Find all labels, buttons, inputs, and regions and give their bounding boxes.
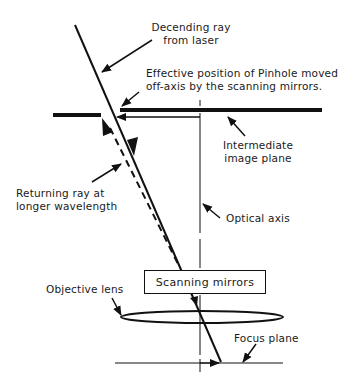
leader-returning-ray [92, 164, 121, 182]
label-line: Decending ray [146, 21, 236, 34]
label-pinhole: Effective position of Pinhole moved off-… [146, 67, 338, 93]
label-objective-lens: Objective lens [46, 283, 123, 296]
leader-intermediate-plane [228, 117, 245, 136]
label-descending-ray: Decending ray from laser [146, 21, 236, 47]
label-line: longer wavelength [16, 200, 117, 213]
label-line: Intermediate [218, 139, 298, 152]
label-scanning-mirrors: Scanning mirrors [156, 276, 254, 289]
intermediate-image-plane [53, 108, 322, 117]
leader-pinhole [122, 92, 139, 106]
label-line: Effective position of Pinhole moved [146, 67, 338, 80]
label-focus-plane: Focus plane [234, 332, 299, 345]
returning-ray-arrowhead [102, 118, 113, 136]
label-intermediate-plane: Intermediate image plane [218, 139, 298, 165]
leader-objective-lens [112, 298, 121, 315]
scanning-mirrors-box: Scanning mirrors [144, 270, 266, 294]
label-line: image plane [218, 152, 298, 165]
returning-ray [110, 128, 180, 268]
label-optical-axis: Optical axis [226, 212, 290, 225]
label-line: off-axis by the scanning mirrors. [146, 80, 338, 93]
leader-optical-axis [203, 204, 220, 218]
leader-descending-ray [102, 40, 152, 72]
label-line: from laser [146, 34, 236, 47]
leader-focus-plane [243, 344, 256, 362]
label-returning-ray: Returning ray at longer wavelength [16, 187, 117, 213]
ray-arrowhead-lens [190, 296, 198, 306]
label-line: Returning ray at [16, 187, 117, 200]
